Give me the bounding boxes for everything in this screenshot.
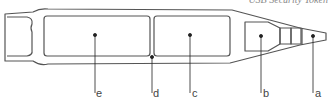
label-c: c xyxy=(192,87,198,99)
dot-e xyxy=(93,33,96,36)
label-a: a xyxy=(315,87,322,99)
compartment-e xyxy=(44,16,150,56)
label-b: b xyxy=(263,87,269,99)
pen-diagram: a b c d e xyxy=(0,0,332,106)
connector-2 xyxy=(291,28,301,44)
label-e: e xyxy=(96,87,102,99)
dot-b xyxy=(259,34,262,37)
compartment-c xyxy=(154,16,230,56)
left-cap xyxy=(7,17,32,56)
dot-a xyxy=(311,34,314,37)
connector-1 xyxy=(280,28,291,44)
label-d: d xyxy=(153,87,159,99)
dot-d xyxy=(150,55,153,58)
dot-c xyxy=(188,33,191,36)
